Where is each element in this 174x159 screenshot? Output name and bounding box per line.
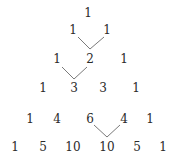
connector-row2-to-3: [62, 67, 87, 79]
row4-value2: 6: [86, 113, 94, 125]
row5-value2: 10: [65, 141, 80, 153]
row5-value4: 5: [133, 141, 141, 153]
pascal-triangle-diagram: 1 1 1 1 2 1 1 3 3 1 1 4 6 4 1 1 5 10 10 …: [0, 0, 174, 159]
row2-value1: 2: [86, 53, 94, 65]
row5-value5: 1: [159, 141, 167, 153]
row2-value0: 1: [53, 53, 61, 65]
row1-value1: 1: [103, 24, 111, 36]
row1-value0: 1: [69, 24, 77, 36]
row5-value1: 5: [39, 141, 47, 153]
row4-value3: 4: [120, 113, 128, 125]
row4-value4: 1: [146, 113, 154, 125]
row3-value3: 1: [132, 82, 140, 94]
row4-value0: 1: [26, 113, 34, 125]
row3-value0: 1: [39, 82, 47, 94]
row3-value2: 3: [99, 82, 107, 94]
connector-row1-to-2: [78, 37, 104, 49]
row3-value1: 3: [70, 82, 78, 94]
connector-row4-to-10: [94, 125, 120, 137]
row0-value0: 1: [84, 7, 92, 19]
connector-lines: [0, 0, 174, 159]
row4-value1: 4: [53, 113, 61, 125]
row2-value2: 1: [120, 53, 128, 65]
row5-value3: 10: [99, 141, 114, 153]
row5-value0: 1: [11, 141, 19, 153]
